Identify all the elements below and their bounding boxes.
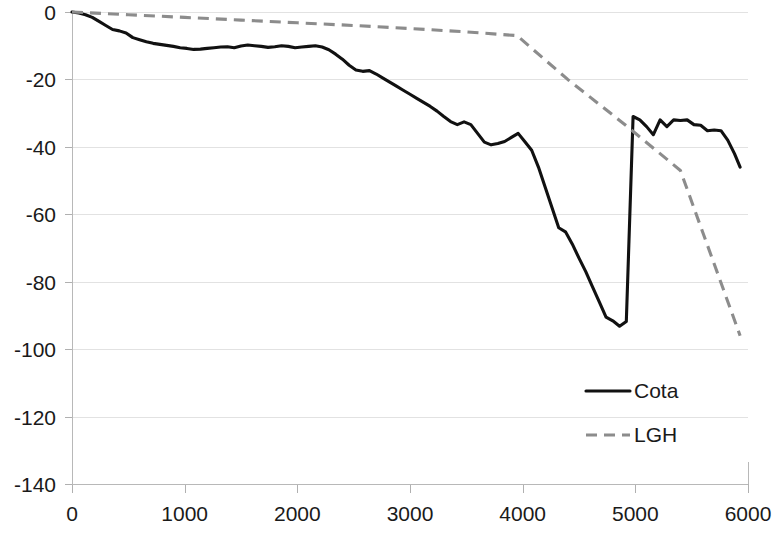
axes xyxy=(72,12,749,485)
y-tick-label-7: -140 xyxy=(14,473,56,496)
series-line-lgh xyxy=(72,12,740,336)
data-series xyxy=(72,12,740,336)
x-tick-label-5: 5000 xyxy=(612,502,659,525)
y-tick-label-3: -60 xyxy=(26,203,56,226)
series-line-cota xyxy=(72,12,740,326)
x-tick-label-3: 3000 xyxy=(387,502,434,525)
y-tick-label-4: -80 xyxy=(26,271,56,294)
y-tick-label-5: -100 xyxy=(14,338,56,361)
tick-marks xyxy=(65,13,749,494)
y-tick-label-2: -40 xyxy=(26,136,56,159)
line-chart: 0-20-40-60-80-100-120-140 01000200030004… xyxy=(0,0,772,537)
chart-legend: CotaLGH xyxy=(586,379,679,446)
y-tick-label-1: -20 xyxy=(26,68,56,91)
y-tick-label-0: 0 xyxy=(44,1,56,24)
chart-canvas: 0-20-40-60-80-100-120-140 01000200030004… xyxy=(0,0,772,537)
x-tick-label-2: 2000 xyxy=(274,502,321,525)
legend-label-lgh: LGH xyxy=(634,423,677,446)
legend-label-cota: Cota xyxy=(634,379,679,402)
y-tick-label-6: -120 xyxy=(14,406,56,429)
x-tick-label-0: 0 xyxy=(66,502,78,525)
gridlines xyxy=(72,13,748,485)
x-axis-tick-labels: 0100020003000400050006000 xyxy=(66,502,771,525)
x-tick-label-6: 6000 xyxy=(725,502,772,525)
x-tick-label-1: 1000 xyxy=(161,502,208,525)
x-tick-label-4: 4000 xyxy=(499,502,546,525)
y-axis-tick-labels: 0-20-40-60-80-100-120-140 xyxy=(14,1,56,496)
